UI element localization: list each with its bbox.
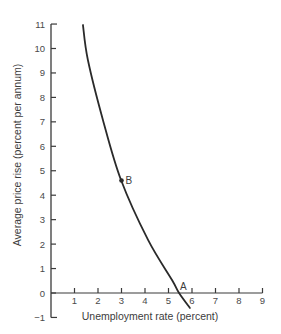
x-tick-label: 3 bbox=[119, 295, 124, 306]
y-tick-label: 9 bbox=[40, 67, 45, 78]
x-axis: 123456789 bbox=[51, 288, 265, 306]
x-tick-label: 2 bbox=[95, 295, 100, 306]
y-tick-label: 11 bbox=[35, 19, 45, 30]
y-tick-label: 10 bbox=[34, 43, 45, 54]
x-tick-label: 1 bbox=[72, 295, 77, 306]
y-tick-label: 8 bbox=[40, 92, 45, 103]
y-tick-label: 4 bbox=[40, 190, 45, 201]
x-tick-label: 8 bbox=[236, 295, 241, 306]
series-layer bbox=[83, 25, 190, 308]
x-tick-label: 5 bbox=[166, 295, 171, 306]
x-tick-label: 6 bbox=[189, 295, 194, 306]
y-tick-label: 6 bbox=[40, 141, 45, 152]
y-tick-label: 7 bbox=[40, 116, 45, 127]
phillips-curve-chart: −101234567891011 123456789 BA Unemployme… bbox=[0, 0, 281, 334]
y-tick-label: 5 bbox=[40, 165, 45, 176]
x-tick-label: 9 bbox=[260, 295, 265, 306]
annotations-layer: BA bbox=[119, 175, 187, 292]
y-axis: −101234567891011 bbox=[34, 19, 57, 323]
y-tick-label: 1 bbox=[40, 263, 45, 274]
phillips-curve-line bbox=[83, 25, 190, 308]
point-a-label: A bbox=[180, 281, 187, 292]
y-tick-label: 2 bbox=[40, 239, 45, 250]
y-tick-label: 0 bbox=[40, 288, 45, 299]
point-b-marker bbox=[119, 178, 124, 183]
y-tick-label: −1 bbox=[34, 312, 45, 323]
x-tick-label: 7 bbox=[213, 295, 218, 306]
point-b-label: B bbox=[126, 175, 133, 186]
y-axis-title: Average price rise (percent per annum) bbox=[11, 64, 23, 246]
x-axis-title: Unemployment rate (percent) bbox=[82, 310, 219, 322]
y-tick-label: 3 bbox=[40, 214, 45, 225]
x-tick-label: 4 bbox=[142, 295, 147, 306]
